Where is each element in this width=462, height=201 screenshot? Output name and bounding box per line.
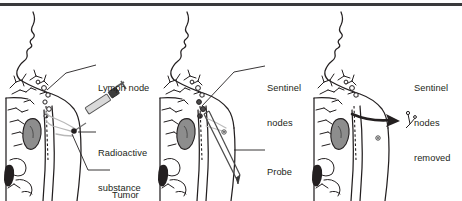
removal-arrow-icon xyxy=(352,114,400,127)
sentinel-node-biopsy-figure: Lymph node Radioactive substance or dye … xyxy=(0,0,462,201)
label-probe-line-1: Probe xyxy=(267,167,292,179)
label-lymph-node-line-1: Lymph node xyxy=(98,83,149,95)
label-sentinel-removed-line-2: nodes xyxy=(414,118,451,130)
panel-injection-stage: Lymph node Radioactive substance or dye … xyxy=(0,10,154,201)
label-probe: Probe xyxy=(267,144,292,201)
panel-probe-detection-stage: Sentinel nodes Probe xyxy=(154,10,308,201)
label-tumor-line-1: Tumor xyxy=(112,190,139,201)
label-sentinel-removed-line-1: Sentinel xyxy=(414,83,451,95)
top-divider-rule xyxy=(0,3,462,6)
label-sentinel-nodes-line-2: nodes xyxy=(267,118,301,130)
label-sentinel-nodes-removed: Sentinel nodes removed xyxy=(414,60,451,188)
label-sentinel-nodes: Sentinel nodes xyxy=(267,60,301,153)
tumor-marker xyxy=(71,128,77,134)
label-lymph-node: Lymph node xyxy=(98,60,149,118)
label-tumor: Tumor xyxy=(112,167,139,201)
label-radioactive-line-1: Radioactive xyxy=(98,148,147,160)
label-sentinel-nodes-line-1: Sentinel xyxy=(267,83,301,95)
label-sentinel-removed-line-3: removed xyxy=(414,153,451,165)
panel-nodes-removed-stage: Sentinel nodes removed xyxy=(308,10,462,201)
